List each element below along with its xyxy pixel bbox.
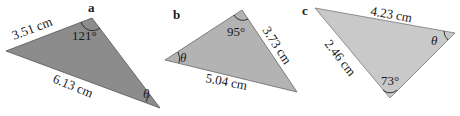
triangle-a: a 3.51 cm 121° 6.13 cm θ bbox=[6, 0, 160, 108]
triangle-b: b 95° 3.73 cm θ 5.04 cm bbox=[165, 7, 297, 93]
angle-b-95: 95° bbox=[227, 24, 245, 39]
triangle-diagram: a 3.51 cm 121° 6.13 cm θ b 95° 3.73 cm θ… bbox=[0, 0, 460, 116]
label-c: c bbox=[302, 3, 308, 18]
angle-a-theta: θ bbox=[143, 86, 150, 101]
angle-b-theta: θ bbox=[180, 50, 187, 65]
label-a: a bbox=[88, 0, 95, 15]
angle-c-73: 73° bbox=[381, 73, 399, 88]
angle-a-121: 121° bbox=[72, 28, 97, 43]
triangle-c: c 4.23 cm θ 2.46 cm 73° bbox=[302, 3, 455, 98]
label-b: b bbox=[173, 7, 180, 22]
angle-c-theta: θ bbox=[431, 33, 438, 48]
